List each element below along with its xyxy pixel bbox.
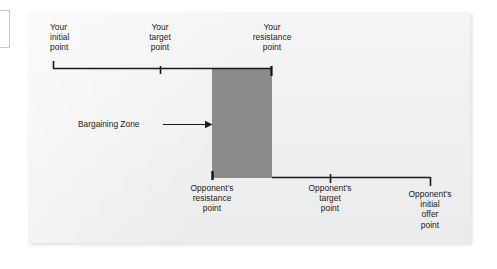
your-resistance-point-label: Your resistance point — [253, 22, 292, 53]
opponents-target-point-label: Opponent's target point — [308, 183, 351, 214]
your-scale-line — [53, 61, 272, 69]
your-target-point-label: Your target point — [149, 22, 171, 53]
opponents-initial-offer-point-label: Opponent's initial offer point — [408, 189, 451, 230]
opponents-resistance-point-label: Opponent's resistance point — [190, 183, 233, 214]
bargaining-zone-figure: Your initial point Your target point You… — [0, 0, 497, 269]
bargaining-zone-rect — [212, 68, 272, 178]
bargaining-zone-label: Bargaining Zone — [78, 119, 139, 129]
your-initial-point-label: Your initial point — [50, 22, 69, 53]
bargaining-zone-arrowhead-icon — [205, 121, 213, 128]
